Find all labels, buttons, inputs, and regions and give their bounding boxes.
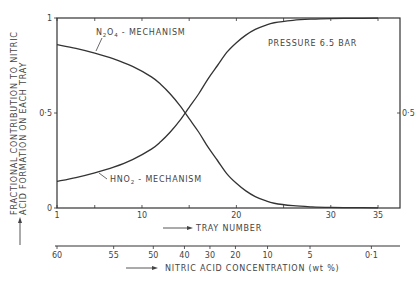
y-tick-label: 1 (47, 14, 52, 23)
secondary-tick-label: 20 (230, 251, 240, 260)
secondary-tick-label: 30 (205, 251, 215, 260)
secondary-axis-arrow (126, 266, 158, 270)
x-tick-label: 35 (373, 211, 383, 220)
chart: 110203035 00·510·5 FRACTIONAL CONTRIBUTI… (0, 0, 419, 287)
x-tick-label: 30 (326, 211, 336, 220)
hno2-leader-line (99, 173, 107, 179)
x-axis-ticks: 110203035 (54, 18, 383, 220)
y-axis-label: FRACTIONAL CONTRIBUTION TO NITRIC ACID F… (10, 31, 28, 215)
n2o4-label-rest: - MECHANISM (119, 28, 186, 37)
secondary-axis-ticks: 6055504030201050·1 (52, 246, 378, 260)
series-line-n2o4 (57, 45, 378, 208)
x-axis-arrow (163, 226, 193, 230)
n2o4-leader-line (96, 38, 102, 51)
x-tick-label: 20 (231, 211, 241, 220)
series-label-n2o4: N2O4 - MECHANISM (96, 28, 185, 38)
n2o4-label-n: N (96, 28, 103, 37)
secondary-tick-label: 60 (52, 251, 62, 260)
secondary-tick-label: 5 (307, 251, 312, 260)
secondary-tick-label: 10 (262, 251, 272, 260)
y-tick-label: 0·5 (39, 109, 52, 118)
x-tick-label: 1 (54, 211, 59, 220)
pressure-annotation: PRESSURE 6.5 BAR (268, 39, 357, 48)
y-tick-label: 0 (47, 204, 52, 213)
x-axis-label: TRAY NUMBER (195, 224, 262, 233)
secondary-tick-label: 0·1 (365, 251, 378, 260)
y-right-tick-label: 0·5 (402, 109, 415, 118)
series-label-hno2: HNO2 - MECHANISM (110, 175, 202, 185)
y-axis-ticks: 00·510·5 (39, 14, 414, 213)
y-axis-label-line1: FRACTIONAL CONTRIBUTION TO NITRIC (10, 31, 19, 215)
x-tick-label: 10 (137, 211, 147, 220)
y-axis-arrow (18, 217, 22, 245)
secondary-tick-label: 40 (179, 251, 189, 260)
secondary-axis-label: NITRIC ACID CONCENTRATION (wt %) (165, 264, 339, 273)
secondary-tick-label: 50 (148, 251, 158, 260)
secondary-tick-label: 55 (109, 251, 119, 260)
y-axis-label-line2: ACID FORMATION ON EACH TRAY (19, 62, 28, 215)
hno2-label-main: HNO (110, 175, 131, 184)
hno2-label-rest: - MECHANISM (135, 175, 202, 184)
n2o4-label-o: O (107, 28, 114, 37)
